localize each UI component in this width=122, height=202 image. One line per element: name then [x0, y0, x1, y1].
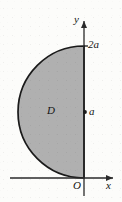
- figure-graphic: [0, 0, 122, 202]
- x-axis-label: x: [106, 180, 111, 191]
- figure-container: y x O 2a a D: [0, 0, 122, 202]
- y-axis-arrowhead: [81, 21, 87, 28]
- tick-label-2a: 2a: [88, 39, 99, 50]
- tick-label-a: a: [89, 106, 95, 117]
- region-label-d: D: [47, 105, 55, 116]
- origin-label: O: [73, 180, 81, 191]
- y-axis-label: y: [74, 14, 79, 25]
- tick-mark-a: [83, 110, 87, 114]
